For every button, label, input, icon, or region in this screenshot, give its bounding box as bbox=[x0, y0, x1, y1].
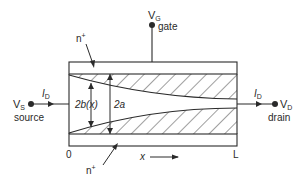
source-terminal bbox=[28, 101, 34, 107]
lower-depletion-region bbox=[69, 108, 237, 134]
axis-origin-label: 0 bbox=[66, 149, 72, 160]
bottom-n-plus-layer bbox=[69, 134, 237, 146]
bottom-n-plus-pointer bbox=[103, 146, 116, 165]
drain-name-label: drain bbox=[268, 112, 290, 123]
drain-current-label: ID bbox=[254, 88, 262, 100]
drain-current-arrow-icon bbox=[256, 101, 262, 107]
source-current-label: ID bbox=[42, 88, 50, 100]
drain-voltage-label: VD bbox=[280, 98, 292, 111]
drain-terminal bbox=[272, 101, 278, 107]
channel-width-label: 2b(x) bbox=[74, 99, 98, 110]
source-voltage-label: VS bbox=[13, 98, 25, 111]
x-axis-arrowhead-icon bbox=[172, 155, 179, 160]
full-width-label: 2a bbox=[113, 99, 126, 110]
upper-depletion-region bbox=[69, 74, 237, 99]
axis-variable-label: x bbox=[139, 151, 146, 162]
source-current-arrow-icon bbox=[48, 101, 54, 107]
gate-name-label: gate bbox=[158, 21, 178, 32]
bottom-n-plus-label: n+ bbox=[86, 164, 96, 176]
source-name-label: source bbox=[14, 112, 44, 123]
gate-terminal bbox=[149, 22, 155, 28]
jfet-diagram: VG gate VS source VD drain ID ID n+ n+ 2… bbox=[0, 0, 307, 180]
channel-width-arrow-up-icon bbox=[88, 83, 94, 89]
top-n-plus-label: n+ bbox=[76, 32, 86, 44]
axis-end-label: L bbox=[233, 149, 239, 160]
